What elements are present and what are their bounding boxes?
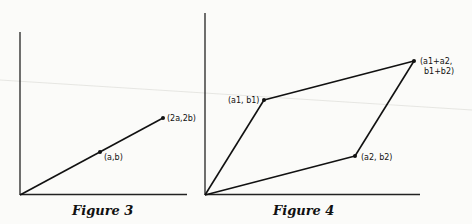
edge-top: [264, 61, 414, 100]
vector-a1-b1: [205, 100, 264, 195]
figure-4: (a1, b1) (a2, b2) (a1+a2, b1+b2) Figure …: [205, 13, 454, 218]
label-2a-2b: (2a,2b): [167, 114, 196, 123]
point-2a-2b: [161, 116, 165, 120]
caption-figure-3: Figure 3: [71, 203, 133, 218]
label-a-b: (a,b): [104, 153, 123, 162]
vector-line: [20, 118, 163, 195]
point-a-b: [98, 150, 102, 154]
point-a1-b1: [262, 98, 266, 102]
vector-a2-b2: [205, 156, 355, 195]
point-sum: [412, 59, 416, 63]
figures-canvas: (a,b) (2a,2b) Figure 3 (a1, b1) (a2, b2)…: [0, 0, 472, 224]
point-a2-b2: [353, 154, 357, 158]
edge-right: [355, 61, 414, 156]
label-sum-line1: (a1+a2,: [420, 57, 452, 66]
label-sum-line2: b1+b2): [424, 67, 454, 76]
label-a1-b1: (a1, b1): [228, 96, 260, 105]
label-a2-b2: (a2, b2): [361, 153, 393, 162]
caption-figure-4: Figure 4: [272, 203, 334, 218]
figure-3: (a,b) (2a,2b) Figure 3: [20, 32, 196, 218]
